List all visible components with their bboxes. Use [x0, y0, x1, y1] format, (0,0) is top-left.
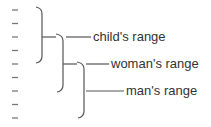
woman-bracket [56, 34, 63, 92]
woman-range-label: woman's range [111, 57, 199, 70]
man-bracket [77, 62, 84, 118]
scale-ticks [12, 10, 18, 118]
child-range-label: child's range [93, 30, 166, 43]
child-bracket [36, 7, 42, 63]
man-range-label: man's range [126, 84, 197, 97]
